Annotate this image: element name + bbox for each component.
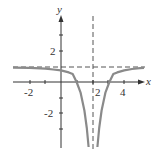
y-tick-label-2: 2 <box>50 45 56 57</box>
x-tick-label-2: 2 <box>95 86 101 98</box>
x-axis-arrow-icon <box>138 80 145 85</box>
x-axis-label: x <box>145 75 151 87</box>
x-axis <box>13 80 145 85</box>
x-tick-label-4: 4 <box>120 86 126 98</box>
curve-right-branch <box>97 68 144 147</box>
x-tick-label-neg2: -2 <box>24 86 33 98</box>
y-axis-label: y <box>56 3 62 15</box>
y-tick-label-neg2: -2 <box>44 107 53 119</box>
function-plot: y x -2 2 4 2 -2 <box>0 0 160 155</box>
y-axis-arrow-icon <box>59 15 64 22</box>
